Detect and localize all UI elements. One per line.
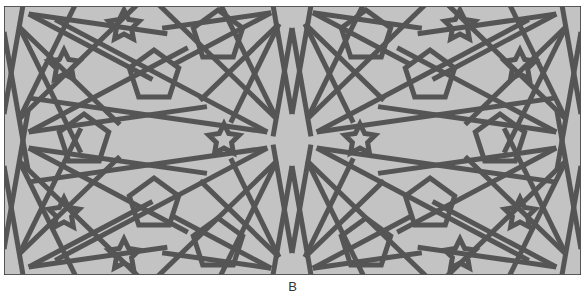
geometric-pattern-panel <box>4 6 581 275</box>
figure-caption: B <box>0 279 585 294</box>
